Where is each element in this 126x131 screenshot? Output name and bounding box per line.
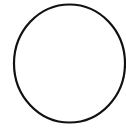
canvas	[0, 0, 126, 131]
circle-outline	[14, 5, 125, 123]
